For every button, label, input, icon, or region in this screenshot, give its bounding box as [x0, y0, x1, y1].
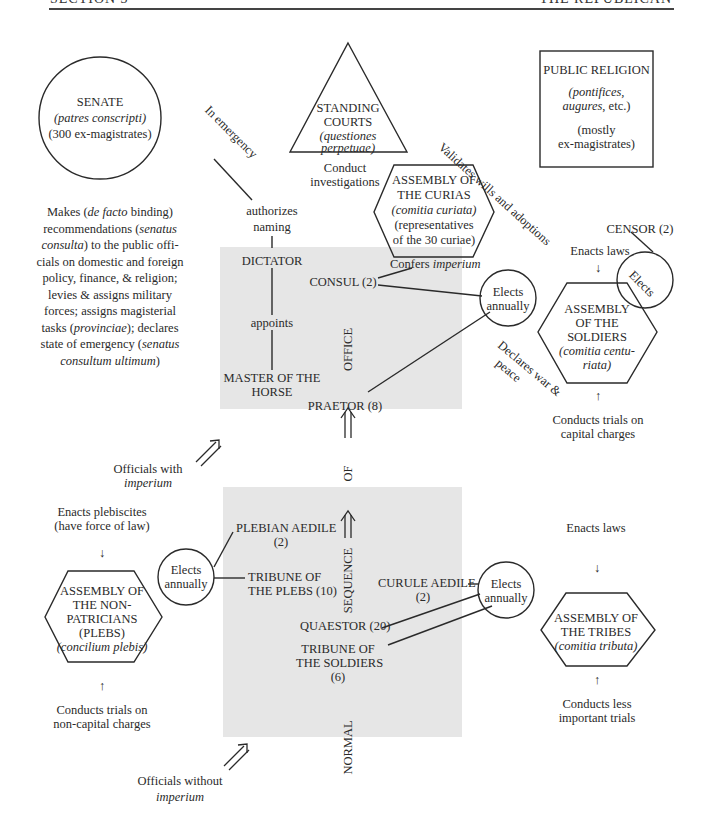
normal-vertical-word: NORMAL — [341, 718, 356, 778]
courts-action-2: investigations — [300, 174, 390, 190]
office-vertical-word: OFFICE — [341, 320, 356, 380]
officials-without-imperium: imperium — [130, 789, 230, 805]
plebian-aedile-2: (2) — [236, 534, 326, 550]
senate-description: Makes (de facto binding) recommendations… — [20, 204, 200, 369]
plebs-elects-2: annually — [158, 576, 214, 592]
soldiers-trials-2: capital charges — [546, 426, 650, 442]
senate-size: (300 ex-magistrates) — [40, 126, 160, 142]
tribes-trials-2: important trials — [550, 710, 644, 726]
authorizes-label: authorizes — [232, 203, 312, 219]
religion-latin-2: augures, etc.) — [540, 98, 653, 114]
tribes-elects-2: annually — [478, 590, 534, 606]
tribune-plebs-2: THE PLEBS (10) — [248, 583, 334, 599]
up-arrow-icon: ↑ — [587, 672, 607, 688]
naming-label: naming — [232, 219, 312, 235]
sequence-vertical-word: SEQUENCE — [341, 546, 356, 616]
senate-latin-text: patres conscripti — [58, 111, 142, 125]
curule-aedile-2: (2) — [378, 589, 468, 605]
curias-note-1: (representatives — [378, 217, 490, 233]
tribes-latin: (comitia tributa) — [550, 638, 642, 654]
quaestor-label: QUAESTOR (20) — [300, 618, 384, 634]
curias-latin: (comitia curiata) — [378, 202, 490, 218]
confers-imperium-label: Confers imperium — [390, 256, 480, 272]
tribune-soldiers-3: (6) — [300, 669, 376, 685]
down-arrow-icon: ↓ — [587, 560, 607, 576]
religion-note-2: ex-magistrates) — [540, 136, 653, 152]
elects-annually-2: annually — [478, 298, 538, 314]
down-arrow-icon: ↓ — [588, 260, 608, 276]
curias-note-2: of the 30 curiae) — [378, 232, 490, 248]
plebs-trials-2: non-capital charges — [46, 716, 158, 732]
consul-label: CONSUL (2) — [308, 274, 378, 290]
officials-without-label: Officials without — [130, 773, 230, 789]
dictator-label: DICTATOR — [232, 253, 312, 269]
plebs-latin: (concilium plebis) — [56, 639, 148, 655]
officials-with-imperium: imperium — [108, 475, 188, 491]
plebs-enacts-2: (have force of law) — [50, 518, 154, 534]
up-arrow-icon: ↑ — [588, 388, 608, 404]
soldiers-enacts-label: Enacts laws — [560, 243, 640, 259]
religion-title: PUBLIC RELIGION — [540, 62, 653, 78]
soldiers-latin-2: riata) — [556, 357, 638, 373]
praetor-label: PRAETOR (8) — [305, 398, 385, 414]
tribes-enacts-label: Enacts laws — [556, 520, 636, 536]
of-vertical-word: OF — [341, 459, 356, 489]
senate-title: SENATE — [40, 94, 160, 110]
senate-latin: (patres conscripti) — [40, 110, 160, 126]
curias-title-2: THE CURIAS — [378, 187, 490, 203]
appoints-label: appoints — [232, 315, 312, 331]
courts-latin-2: perpetuae) — [308, 140, 388, 156]
down-arrow-icon: ↓ — [92, 545, 112, 561]
up-arrow-icon: ↑ — [92, 678, 112, 694]
censor-label: CENSOR (2) — [600, 221, 680, 237]
